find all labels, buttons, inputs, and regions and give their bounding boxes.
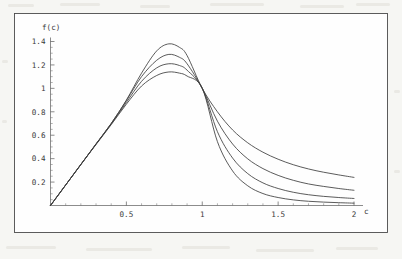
y-tick-label: 1 bbox=[41, 84, 46, 93]
x-tick-label: 2 bbox=[352, 210, 357, 219]
plot-background bbox=[14, 13, 388, 233]
chart-svg: 0.511.520.20.40.60.811.21.4 f(c) c bbox=[0, 0, 402, 259]
x-axis-label: c bbox=[364, 207, 369, 216]
x-tick-label: 0.5 bbox=[120, 210, 134, 219]
y-tick-label: 0.6 bbox=[32, 131, 46, 140]
y-axis-label: f(c) bbox=[42, 23, 60, 32]
y-tick-label: 1.2 bbox=[32, 61, 46, 70]
x-tick-label: 1 bbox=[200, 210, 205, 219]
y-tick-label: 1.4 bbox=[32, 37, 46, 46]
chart-figure: 0.511.520.20.40.60.811.21.4 f(c) c bbox=[0, 0, 402, 259]
y-tick-label: 0.8 bbox=[32, 108, 46, 117]
y-tick-label: 0.2 bbox=[32, 178, 46, 187]
x-tick-label: 1.5 bbox=[271, 210, 285, 219]
y-tick-label: 0.4 bbox=[32, 154, 46, 163]
